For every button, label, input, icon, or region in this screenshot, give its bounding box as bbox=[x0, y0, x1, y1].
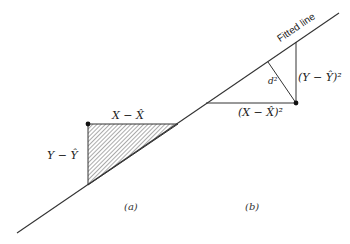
fitted-line bbox=[17, 13, 339, 233]
diagram-drawing bbox=[0, 0, 350, 244]
panel-b-caption: (b) bbox=[245, 201, 259, 212]
panel-a-caption: (a) bbox=[124, 201, 138, 212]
shaded-triangle bbox=[88, 124, 178, 185]
regression-distance-diagram: Fitted line X − X̂ Y − Ŷ (X − X̂)² (Y − … bbox=[0, 0, 350, 244]
panel-b-perpendicular-label: d² bbox=[268, 77, 277, 86]
data-point-a bbox=[86, 122, 91, 127]
panel-a-horizontal-label: X − X̂ bbox=[112, 110, 144, 121]
panel-a-vertical-label: Y − Ŷ bbox=[47, 150, 78, 161]
panel-b-horizontal-label: (X − X̂)² bbox=[238, 107, 283, 118]
data-point-b bbox=[294, 101, 299, 106]
panel-b-vertical-label: (Y − Ŷ)² bbox=[298, 72, 342, 83]
